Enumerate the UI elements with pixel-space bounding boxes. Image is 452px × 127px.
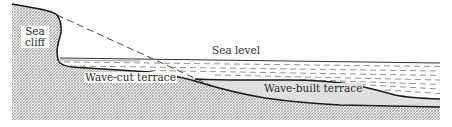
sea-level-label: Sea level (212, 45, 260, 56)
wave-built-terrace-label: Wave-built terrace (263, 83, 363, 94)
diagram-canvas (0, 0, 452, 127)
coastal-profile-diagram: Sea cliff Sea level Wave-cut terrace Wav… (0, 0, 452, 127)
sea-cliff-label: Sea cliff (21, 26, 49, 48)
wave-cut-terrace-label: Wave-cut terrace (84, 72, 177, 83)
sea-cliff-label-line2: cliff (22, 37, 48, 48)
